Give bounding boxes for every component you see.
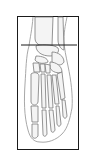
phalanx-1-proximal <box>31 106 38 122</box>
foot-skeleton-diagram <box>0 0 85 162</box>
cuneiform-1 <box>33 63 40 72</box>
metatarsal-1 <box>31 73 39 105</box>
phalanx-5 <box>62 100 67 118</box>
navicular-bone <box>35 56 48 63</box>
phalanx-3 <box>49 110 55 132</box>
phalanx-2 <box>42 110 47 136</box>
phalanx-1-distal <box>32 124 38 138</box>
metatarsal-2 <box>41 74 46 108</box>
cuneiform-3 <box>45 64 50 73</box>
phalanx-4 <box>56 106 61 126</box>
tibia-bone <box>35 17 53 46</box>
cuneiform-2 <box>40 64 45 72</box>
metatarsal-3 <box>47 75 53 108</box>
bones <box>31 17 67 138</box>
